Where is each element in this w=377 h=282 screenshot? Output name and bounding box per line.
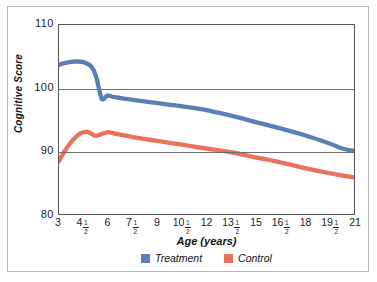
y-axis-title: Cognitive Score [13, 39, 24, 149]
x-tick-label: 18 [300, 217, 312, 228]
x-tick-label: 1612 [272, 217, 290, 236]
x-tick-label: 1012 [173, 217, 191, 236]
x-tick-label: 3 [55, 217, 61, 228]
y-tick-label: 80 [28, 208, 54, 220]
x-tick-label: 1912 [321, 217, 339, 236]
x-axis-title: Age (years) [58, 235, 355, 247]
plot-area [58, 24, 355, 215]
x-tick-label: 1312 [222, 217, 240, 236]
legend-item-control: Control [224, 252, 272, 264]
legend-swatch-icon [224, 254, 233, 263]
legend-item-treatment: Treatment [141, 252, 202, 264]
legend-swatch-icon [141, 254, 150, 263]
legend-label: Control [238, 252, 272, 264]
chart-legend: TreatmentControl [58, 252, 355, 264]
x-tick-label: 712 [126, 217, 138, 236]
x-tick-label: 12 [201, 217, 213, 228]
x-tick-label: 15 [250, 217, 262, 228]
x-axis-ticks: 341267129101212131215161218191221 [58, 217, 355, 233]
x-tick-label: 21 [349, 217, 361, 228]
y-tick-label: 100 [28, 81, 54, 93]
chart-lines [59, 25, 354, 214]
x-tick-label: 9 [154, 217, 160, 228]
x-tick-label: 412 [77, 217, 89, 236]
gridline-y-100 [59, 89, 354, 90]
y-tick-label: 110 [28, 17, 54, 29]
legend-label: Treatment [155, 252, 202, 264]
x-tick-label: 6 [105, 217, 111, 228]
series-line-treatment [59, 61, 354, 151]
gridline-y-90 [59, 152, 354, 153]
y-axis-ticks: 1101009080 [22, 24, 54, 215]
y-tick-label: 90 [28, 144, 54, 156]
chart-figure: 1101009080 Cognitive Score 3412671291012… [0, 0, 377, 282]
